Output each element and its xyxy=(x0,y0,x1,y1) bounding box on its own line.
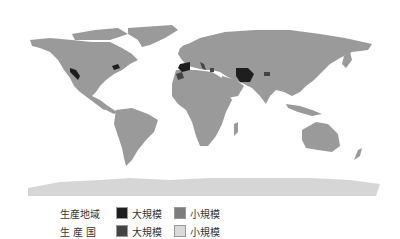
legend-label-region-small: 小規模 xyxy=(190,206,220,221)
legend-row-countries: 生 産 国 大規模 小規模 xyxy=(60,223,360,238)
south-america xyxy=(114,108,158,166)
region-greece xyxy=(210,68,214,72)
map-legend: 生産地域 大規模 小規模 生 産 国 大規模 小規模 xyxy=(60,205,360,238)
new-zealand xyxy=(354,148,362,160)
world-map xyxy=(0,0,400,200)
landmasses xyxy=(30,25,372,166)
legend-label-country-large: 大規模 xyxy=(132,224,162,239)
arctic-islands xyxy=(72,28,128,40)
legend-label-country-small: 小規模 xyxy=(190,224,220,239)
swatch-country-small xyxy=(174,225,186,237)
legend-row-regions: 生産地域 大規模 小規模 xyxy=(60,205,360,221)
central-america xyxy=(92,96,118,114)
africa xyxy=(172,70,232,146)
legend-label-region-large: 大規模 xyxy=(132,206,162,221)
region-afghanistan xyxy=(264,72,270,76)
swatch-country-large xyxy=(116,225,128,237)
legend-title-regions: 生産地域 xyxy=(60,206,112,221)
greenland xyxy=(128,25,178,47)
legend-title-countries: 生 産 国 xyxy=(60,224,112,239)
antarctica xyxy=(28,178,380,196)
australia xyxy=(302,122,340,152)
swatch-region-large xyxy=(116,207,128,219)
indonesia xyxy=(286,104,322,116)
madagascar xyxy=(234,122,238,136)
swatch-region-small xyxy=(174,207,186,219)
north-america xyxy=(30,38,138,110)
